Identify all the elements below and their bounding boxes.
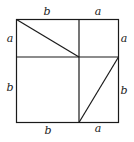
label-bottom-left: b <box>44 124 51 137</box>
diagonal-bottom-right <box>79 57 119 123</box>
label-bottom-right: a <box>95 122 102 135</box>
outer-square <box>17 20 119 123</box>
label-right-top: a <box>121 32 128 45</box>
label-left-bottom: b <box>6 81 13 94</box>
label-top-right: a <box>95 5 102 18</box>
label-top-left: b <box>43 5 50 18</box>
pythagorean-diagram: b a a b a b b a <box>0 0 134 142</box>
label-left-top: a <box>7 32 14 45</box>
diagonal-top-left <box>17 20 80 58</box>
label-right-bottom: b <box>120 84 127 97</box>
